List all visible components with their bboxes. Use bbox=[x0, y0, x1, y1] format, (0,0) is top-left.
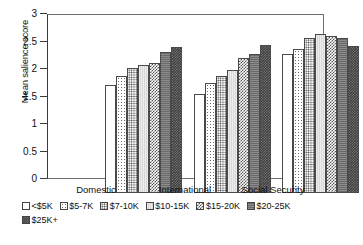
bar bbox=[249, 54, 260, 193]
x-axis-label: Social Security bbox=[214, 184, 332, 195]
bar bbox=[116, 76, 127, 193]
bar bbox=[326, 36, 337, 193]
bars-layer bbox=[96, 30, 363, 193]
bar bbox=[171, 47, 182, 193]
legend-label: <$5K bbox=[32, 201, 53, 211]
legend-item: $7-10K bbox=[100, 201, 139, 211]
bar bbox=[149, 63, 160, 193]
bar bbox=[348, 46, 359, 193]
y-axis-tick-label: 0 bbox=[0, 174, 37, 184]
y-axis-tick-label: 2 bbox=[0, 64, 37, 74]
bar-group bbox=[105, 30, 183, 193]
bar bbox=[282, 54, 293, 193]
bar bbox=[160, 52, 171, 193]
legend-swatch-icon bbox=[247, 202, 255, 210]
y-axis-tick-label: 3 bbox=[0, 9, 37, 19]
legend-item: <$5K bbox=[22, 201, 53, 211]
bar-group bbox=[194, 30, 272, 193]
y-axis-tick-label: 0.5 bbox=[0, 147, 37, 157]
bar-group bbox=[282, 30, 360, 193]
bar bbox=[337, 38, 348, 193]
y-axis-tick-label: 1 bbox=[0, 119, 37, 129]
bar bbox=[127, 68, 138, 193]
legend-swatch-icon bbox=[60, 202, 68, 210]
y-axis-tick bbox=[40, 41, 47, 42]
bar bbox=[315, 34, 326, 193]
legend-item: $20-25K bbox=[247, 201, 291, 211]
y-axis-tick bbox=[40, 96, 47, 97]
bar bbox=[105, 85, 116, 193]
bar bbox=[227, 70, 238, 193]
legend-swatch-icon bbox=[196, 202, 204, 210]
y-axis-tick bbox=[40, 68, 47, 69]
bar bbox=[216, 76, 227, 193]
y-axis-tick bbox=[40, 178, 47, 179]
legend-item: $10-15K bbox=[146, 201, 190, 211]
bar bbox=[293, 49, 304, 193]
bar bbox=[304, 38, 315, 193]
y-axis-tick bbox=[40, 123, 47, 124]
legend-item: $25K+ bbox=[22, 215, 58, 225]
legend-swatch-icon bbox=[22, 202, 30, 210]
y-axis-tick-label: 2.5 bbox=[0, 37, 37, 47]
legend-label: $10-15K bbox=[155, 201, 189, 211]
plot-area bbox=[47, 14, 324, 179]
legend-label: $25K+ bbox=[32, 215, 58, 225]
y-axis-tick-label: 1.5 bbox=[0, 92, 37, 102]
legend-swatch-icon bbox=[146, 202, 154, 210]
legend-item: $15-20K bbox=[196, 201, 240, 211]
legend-label: $5-7K bbox=[69, 201, 93, 211]
legend-label: $15-20K bbox=[206, 201, 240, 211]
legend-label: $7-10K bbox=[110, 201, 139, 211]
legend-label: $20-25K bbox=[256, 201, 290, 211]
y-axis-tick bbox=[40, 151, 47, 152]
bar bbox=[260, 45, 271, 193]
bar bbox=[194, 94, 205, 193]
legend-swatch-icon bbox=[22, 216, 30, 224]
bar bbox=[238, 58, 249, 193]
chart-legend: <$5K$5-7K$7-10K$10-15K$15-20K$20-25K$25K… bbox=[22, 201, 322, 225]
legend-swatch-icon bbox=[100, 202, 108, 210]
y-axis-tick bbox=[40, 13, 47, 14]
bar bbox=[205, 83, 216, 193]
legend-item: $5-7K bbox=[60, 201, 94, 211]
bar bbox=[138, 65, 149, 193]
